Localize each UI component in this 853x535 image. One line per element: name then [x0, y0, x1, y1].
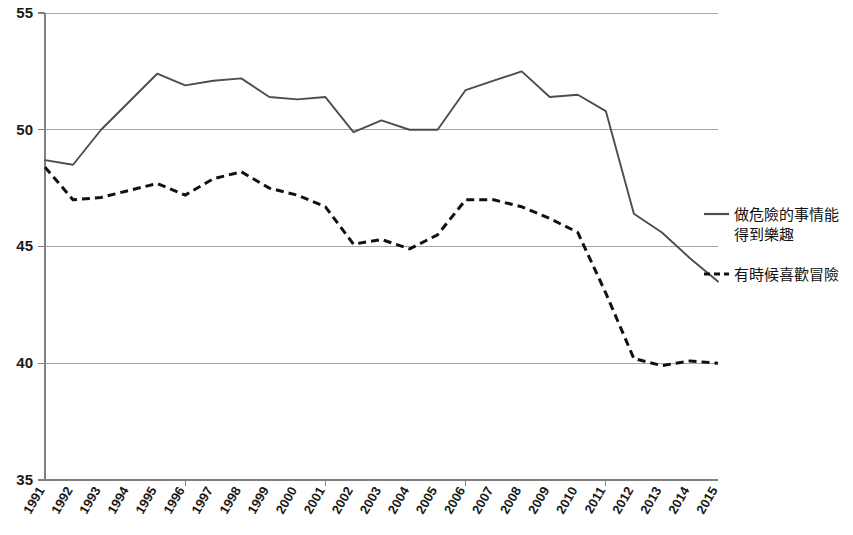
x-axis-tick-label: 1992 — [48, 484, 75, 517]
x-axis-tick-label: 2000 — [273, 484, 300, 517]
chart-legend: 做危險的事情能得到樂趣 有時候喜歡冒險 — [703, 205, 853, 305]
y-axis-tick-label: 35 — [16, 471, 33, 488]
x-axis-tick-label: 2008 — [497, 484, 524, 517]
x-axis-tick-label: 1995 — [132, 484, 159, 517]
y-axis-tick-label: 40 — [16, 354, 33, 371]
x-axis-tick-label: 1998 — [216, 484, 243, 517]
x-axis-tick-label: 2006 — [441, 484, 468, 517]
x-axis-tick-label: 1994 — [104, 483, 132, 516]
legend-item-1[interactable]: 有時候喜歡冒險 — [703, 265, 853, 285]
x-axis-tick-label: 1991 — [20, 484, 47, 517]
x-axis-tick-label: 2011 — [581, 484, 608, 516]
legend-solid-line-icon — [703, 205, 730, 223]
legend-item-label: 做危險的事情能得到樂趣 — [734, 205, 853, 245]
x-axis-tick-label: 2002 — [329, 484, 356, 517]
x-axis-tick-label: 1996 — [160, 484, 187, 517]
y-axis-tick-label: 55 — [16, 4, 33, 21]
legend-item-0[interactable]: 做危險的事情能得到樂趣 — [703, 205, 853, 245]
x-axis-tick-label: 2005 — [413, 484, 440, 517]
legend-dashed-line-icon — [703, 265, 730, 283]
series-line-0 — [45, 71, 718, 281]
line-chart: 3540455055199119921993199419951996199719… — [0, 0, 853, 535]
x-axis-tick-label: 1993 — [76, 484, 103, 517]
x-axis-tick-label: 2015 — [693, 484, 720, 517]
x-axis-tick-label: 2014 — [665, 483, 693, 516]
legend-item-label: 有時候喜歡冒險 — [734, 265, 839, 285]
y-axis-tick-label: 50 — [16, 121, 33, 138]
y-axis-tick-label: 45 — [16, 237, 33, 254]
x-axis-tick-label: 2004 — [385, 483, 413, 516]
x-axis-tick-label: 2003 — [357, 484, 384, 517]
x-axis-tick-label: 2001 — [301, 484, 328, 517]
x-axis-tick-label: 2012 — [609, 484, 636, 517]
x-axis-tick-label: 2009 — [525, 484, 552, 517]
x-axis-tick-label: 1999 — [244, 484, 271, 517]
x-axis-tick-label: 2010 — [553, 484, 580, 517]
x-axis-tick-label: 2013 — [637, 484, 664, 517]
x-axis-tick-label: 2007 — [469, 484, 496, 517]
series-line-1 — [45, 167, 718, 365]
x-axis-tick-label: 1997 — [188, 484, 215, 517]
